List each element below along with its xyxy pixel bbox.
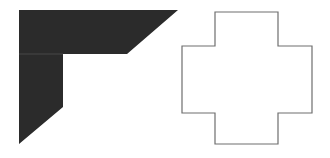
- dark-corner-shape: [19, 10, 178, 144]
- figure-canvas: [0, 0, 330, 158]
- cross-outline-shape: [182, 12, 312, 144]
